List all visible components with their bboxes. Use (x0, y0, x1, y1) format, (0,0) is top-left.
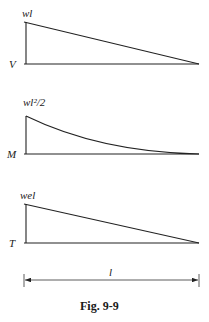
moment-axis-label: M (6, 148, 17, 160)
torque-peak-label: wel (20, 189, 35, 201)
shear-peak-label: wl (22, 7, 32, 19)
torque-axis-label: T (9, 237, 16, 249)
shear-slope-line (24, 22, 199, 64)
dimension-label: l (109, 266, 112, 278)
shear-axis-label: V (9, 58, 17, 70)
figure-caption: Fig. 9-9 (80, 299, 119, 313)
length-dimension: l (24, 266, 199, 287)
diagram-canvas: wl V wl²/2 M wel T l Fig. 9-9 (0, 0, 209, 322)
torque-slope-line (24, 204, 199, 243)
moment-curve (26, 116, 199, 154)
torque-diagram: wel T (9, 189, 199, 249)
moment-diagram: wl²/2 M (6, 96, 199, 160)
moment-peak-label: wl²/2 (23, 96, 46, 108)
shear-diagram: wl V (9, 7, 199, 70)
